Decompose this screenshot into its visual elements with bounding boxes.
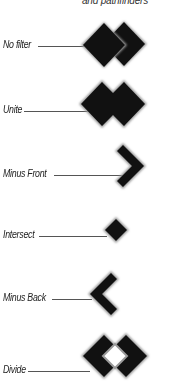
label-divide: Divide xyxy=(3,364,26,375)
divide-shape-icon xyxy=(82,330,152,385)
label-minus-front: Minus Front xyxy=(3,168,47,179)
minus-front-shape-icon xyxy=(112,140,152,196)
leader-line xyxy=(39,236,107,237)
label-intersect: Intersect xyxy=(3,229,34,240)
minus-back-shape-icon xyxy=(86,268,126,324)
label-no-filter: No filter xyxy=(3,39,31,50)
leader-line xyxy=(28,371,90,372)
label-minus-back: Minus Back xyxy=(3,292,46,303)
unite-shape-icon xyxy=(80,77,150,137)
no-filter-shape-icon xyxy=(80,17,150,73)
intersect-shape-icon xyxy=(102,215,132,247)
label-unite: Unite xyxy=(3,104,22,115)
diagram-caption: and pathfinders xyxy=(82,0,148,6)
